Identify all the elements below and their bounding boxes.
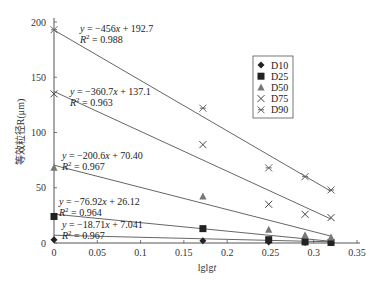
x-tick-label: 0.1 — [134, 247, 147, 258]
svg-text:R2 = 0.988: R2 = 0.988 — [79, 33, 123, 45]
annotation-d90: y = −456x + 192.7R2 = 0.988 — [79, 23, 153, 45]
svg-text:D90: D90 — [271, 104, 288, 115]
regression-scatter-chart: 00.050.10.150.20.250.30.35050100150200lg… — [0, 0, 380, 284]
y-tick-label: 0 — [41, 238, 46, 249]
legend: D10D25D50D75D90 — [253, 56, 293, 118]
annotation-d50: y = −200.6x + 70.40R2 = 0.967 — [61, 150, 143, 172]
x-tick-label: 0.25 — [262, 247, 280, 258]
svg-text:R2 = 0.963: R2 = 0.963 — [69, 96, 113, 108]
y-axis-label: 等效粒径R(μm) — [14, 99, 27, 165]
svg-text:y = −360.7x + 137.1: y = −360.7x + 137.1 — [69, 86, 151, 97]
svg-text:D50: D50 — [271, 82, 288, 93]
svg-text:y = −18.71x + 7.041: y = −18.71x + 7.041 — [61, 219, 143, 230]
annotation-d25: y = −76.92x + 26.12R2 = 0.964 — [58, 196, 140, 218]
x-tick-label: 0.05 — [89, 247, 107, 258]
x-tick-label: 0.35 — [348, 247, 366, 258]
y-tick-label: 150 — [31, 72, 46, 83]
x-tick-label: 0.15 — [175, 247, 193, 258]
svg-text:y = −200.6x + 70.40: y = −200.6x + 70.40 — [61, 150, 143, 161]
annotation-d75: y = −360.7x + 137.1R2 = 0.963 — [69, 86, 151, 108]
svg-text:y = −456x + 192.7: y = −456x + 192.7 — [79, 23, 153, 34]
svg-text:D25: D25 — [271, 71, 288, 82]
svg-text:D10: D10 — [271, 60, 288, 71]
x-tick-label: 0 — [52, 247, 57, 258]
annotation-d10: y = −18.71x + 7.041R2 = 0.967 — [61, 219, 143, 241]
equation-annotations: y = −456x + 192.7R2 = 0.988y = −360.7x +… — [58, 23, 153, 241]
svg-text:R2 = 0.967: R2 = 0.967 — [61, 160, 105, 172]
svg-text:R2 = 0.967: R2 = 0.967 — [61, 229, 105, 241]
x-tick-label: 0.2 — [221, 247, 234, 258]
svg-text:R2 = 0.964: R2 = 0.964 — [58, 206, 102, 218]
svg-text:D75: D75 — [271, 93, 288, 104]
y-tick-label: 100 — [31, 127, 46, 138]
x-axis-label: lglgt — [198, 262, 217, 273]
x-tick-label: 0.3 — [307, 247, 320, 258]
y-tick-label: 50 — [36, 182, 46, 193]
y-tick-label: 200 — [31, 17, 46, 28]
svg-text:y = −76.92x + 26.12: y = −76.92x + 26.12 — [58, 196, 140, 207]
